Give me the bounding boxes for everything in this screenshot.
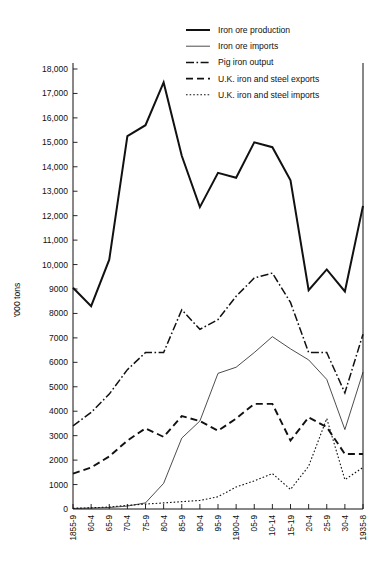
series-line [73,419,363,509]
x-tick-label: 80-4 [160,515,169,532]
x-tick-label: 30-4 [341,515,350,532]
legend-label: Iron ore imports [218,41,278,51]
y-axis-title: '000 tons [12,283,22,318]
legend-label: Iron ore production [218,25,290,35]
x-tick-label: 10-14 [268,515,277,536]
x-tick-label: 60-4 [87,515,96,532]
x-tick-label: 20-4 [305,515,314,532]
legend-label: Pig iron output [218,57,274,67]
y-tick-label: 13,000 [42,186,68,196]
x-tick-label: 75-9 [142,515,151,532]
legend-label: U.K. iron and steel exports [218,74,319,84]
x-tick-label: 1900-4 [232,515,241,541]
y-tick-label: 5000 [49,382,68,392]
legend-label: U.K. iron and steel imports [218,90,319,100]
x-tick-label: 90-4 [196,515,205,532]
y-tick-label: 1000 [49,480,68,490]
axes [73,63,363,509]
chart-figure: 010002000300040005000600070008000900010,… [0,0,386,569]
x-tick-label: 25-9 [323,515,332,532]
x-tick-label: 05-9 [250,515,259,532]
y-tick-label: 0 [63,504,68,514]
line-chart-canvas: 010002000300040005000600070008000900010,… [0,0,386,569]
axis-lines [73,63,363,509]
y-tick-label: 3000 [49,431,68,441]
y-tick-label: 12,000 [42,211,68,221]
y-tick-label: 8000 [49,308,68,318]
y-tick-label: 9000 [49,284,68,294]
series-group [73,82,363,508]
x-tick-label: 1935-8 [359,515,368,541]
legend: Iron ore productionIron ore importsPig i… [186,25,319,100]
series-line [73,82,363,306]
y-tick-label: 6000 [49,357,68,367]
y-tick-label: 14,000 [42,162,68,172]
y-tick-label: 18,000 [42,64,68,74]
y-tick-label: 17,000 [42,88,68,98]
y-tick-label: 10,000 [42,260,68,270]
y-tick-label: 16,000 [42,113,68,123]
x-tick-label: 65-9 [105,515,114,532]
x-tick-label: 95-9 [214,515,223,532]
y-axis-ticks: 010002000300040005000600070008000900010,… [42,64,78,514]
x-tick-label: 15-19 [287,515,296,536]
x-tick-label: 1855-9 [69,515,78,541]
y-tick-label: 7000 [49,333,68,343]
x-tick-label: 70-4 [123,515,132,532]
x-tick-label: 85-9 [178,515,187,532]
y-tick-label: 4000 [49,406,68,416]
series-line [73,273,363,426]
y-tick-label: 15,000 [42,137,68,147]
y-tick-label: 11,000 [43,235,69,245]
y-tick-label: 2000 [49,455,68,465]
